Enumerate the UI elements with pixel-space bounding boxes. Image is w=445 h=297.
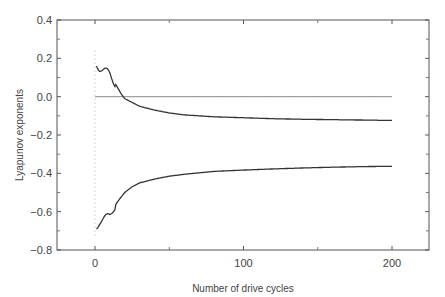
- y-tick-label: −0.6: [30, 206, 52, 218]
- y-tick-label: 0.0: [37, 91, 52, 103]
- axis-ticks: 0.40.20.0−0.2−0.4−0.6−0.80100200: [30, 14, 429, 269]
- x-tick-label: 0: [92, 257, 98, 269]
- upper-exponent-line: [97, 66, 393, 120]
- y-tick-label: −0.8: [30, 244, 52, 256]
- y-tick-label: −0.4: [30, 167, 52, 179]
- y-tick-label: 0.4: [37, 14, 52, 26]
- y-axis-title: Lyapunov exponents: [14, 89, 25, 181]
- y-tick-label: 0.2: [37, 52, 52, 64]
- lower-exponent-line: [97, 166, 393, 229]
- x-tick-label: 200: [383, 257, 401, 269]
- x-axis-title: Number of drive cycles: [192, 283, 294, 294]
- plot-frame: [57, 20, 429, 250]
- lyapunov-chart: 0.40.20.0−0.2−0.4−0.6−0.80100200 Number …: [0, 0, 445, 297]
- data-series: [95, 51, 392, 239]
- y-tick-label: −0.2: [30, 129, 52, 141]
- x-tick-label: 100: [234, 257, 252, 269]
